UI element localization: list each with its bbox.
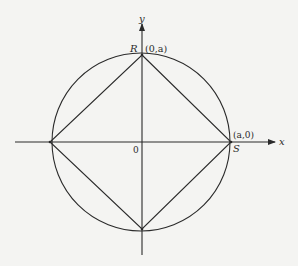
point-s-label: S xyxy=(233,143,240,154)
vertex-s-dot xyxy=(230,141,233,144)
y-axis-label: y xyxy=(138,13,145,24)
vertex-r-dot xyxy=(141,54,144,57)
point-s-coord: (a,0) xyxy=(233,130,254,140)
point-r-coord: (0,a) xyxy=(145,43,167,54)
vertex-bottom-dot xyxy=(141,228,144,231)
vertex-left-dot xyxy=(49,141,52,144)
point-r-label: R xyxy=(129,43,138,54)
x-axis-label: x xyxy=(279,136,285,147)
origin-label: 0 xyxy=(133,145,139,155)
circle-square-diagram: y x 0 R (0,a) (a,0) S xyxy=(0,0,298,266)
